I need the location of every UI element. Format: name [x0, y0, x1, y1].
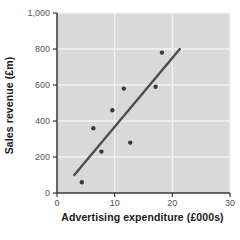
scatter-chart-figure: 02004006008001,0000102030 Sales revenue …: [0, 0, 240, 240]
data-point: [153, 85, 157, 89]
y-axis-title: Sales revenue (£m): [3, 21, 16, 191]
data-point: [128, 140, 132, 144]
data-point: [91, 126, 95, 130]
y-tick-label: 600: [35, 80, 50, 90]
x-tick-label: 10: [110, 198, 120, 208]
x-tick-label: 20: [167, 198, 177, 208]
y-tick-label: 200: [35, 152, 50, 162]
y-tick-label: 0: [45, 188, 50, 198]
data-point: [80, 180, 84, 184]
x-tick-label: 0: [54, 198, 59, 208]
data-point: [160, 50, 164, 54]
y-tick-label: 400: [35, 116, 50, 126]
x-tick-label: 30: [225, 198, 235, 208]
x-axis-title: Advertising expenditure (£000s): [47, 211, 238, 224]
y-tick-label: 1,000: [27, 8, 50, 18]
y-tick-label: 800: [35, 44, 50, 54]
data-point: [110, 108, 114, 112]
plot-area: 02004006008001,0000102030: [0, 0, 240, 240]
data-point: [122, 86, 126, 90]
data-point: [99, 149, 103, 153]
